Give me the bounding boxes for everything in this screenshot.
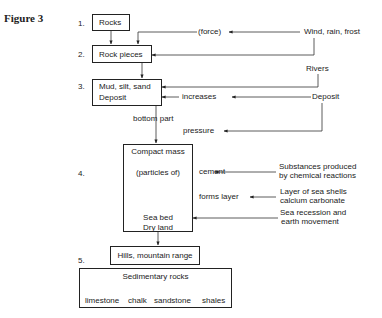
box-mud-deposit: Mud, silt, sand Deposit <box>92 79 162 106</box>
step-number-1: 1. <box>78 19 85 29</box>
hills-text: Hills, mountain range <box>111 251 199 261</box>
step-number-3: 3. <box>78 82 85 92</box>
box-rocks: Rocks <box>92 14 130 31</box>
box-rock-pieces-text: Rock pieces <box>99 50 143 60</box>
rock-type-chalk: chalk <box>128 296 147 306</box>
step-number-4: 4. <box>78 169 85 179</box>
box-rock-pieces: Rock pieces <box>92 45 152 63</box>
label-recession-2: earth movement <box>281 217 339 227</box>
label-rivers: Rivers <box>306 64 329 74</box>
box-deposit-text: Deposit <box>99 93 126 103</box>
box-hills: Hills, mountain range <box>110 246 200 265</box>
label-bottom-part: bottom part <box>133 114 173 124</box>
label-pressure: pressure <box>183 126 214 136</box>
rock-type-limestone: limestone <box>85 296 119 306</box>
label-increases: increases <box>182 92 216 102</box>
rock-type-shales: shales <box>202 296 225 306</box>
dry-land-text: Dry land <box>124 223 192 233</box>
label-shells-2: calcium carbonate <box>280 196 345 206</box>
label-forms-layer: forms layer <box>199 192 239 202</box>
label-wind-rain-frost: Wind, rain, frost <box>304 27 360 37</box>
sedimentary-title: Sedimentary rocks <box>80 272 231 282</box>
box-mud-text: Mud, silt, sand <box>99 82 151 92</box>
step-number-5: 5. <box>78 256 85 266</box>
label-deposit-source: Deposit <box>312 92 339 102</box>
label-force: (force) <box>198 27 221 37</box>
compact-mass-text: Compact mass <box>124 147 192 157</box>
figure-label: Figure 3 <box>4 12 43 24</box>
step-number-2: 2. <box>78 50 85 60</box>
particles-text: (particles of) <box>124 168 192 178</box>
rock-type-sandstone: sandstone <box>154 296 191 306</box>
box-rocks-text: Rocks <box>99 18 121 28</box>
sea-bed-text: Sea bed <box>124 213 192 223</box>
label-substances-2: by chemical reactions <box>279 171 356 181</box>
label-cement: cement <box>199 167 225 177</box>
box-compact-mass: Compact mass (particles of) Sea bed Dry … <box>123 144 193 232</box>
